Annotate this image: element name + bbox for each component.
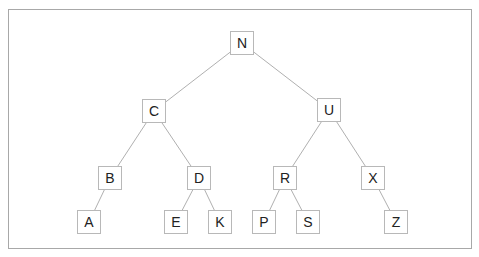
tree-node-N: N xyxy=(230,31,254,55)
tree-node-Z: Z xyxy=(384,210,408,234)
tree-node-C: C xyxy=(142,99,166,123)
tree-node-K: K xyxy=(208,210,232,234)
tree-node-B: B xyxy=(98,166,122,190)
tree-node-X: X xyxy=(361,166,385,190)
edge-N-C xyxy=(154,43,242,111)
edge-N-U xyxy=(242,43,329,110)
tree-node-E: E xyxy=(164,210,188,234)
tree-node-R: R xyxy=(273,166,297,190)
tree-node-P: P xyxy=(252,210,276,234)
tree-node-A: A xyxy=(77,210,101,234)
tree-node-D: D xyxy=(187,166,211,190)
tree-node-U: U xyxy=(317,98,341,122)
tree-node-S: S xyxy=(296,210,320,234)
